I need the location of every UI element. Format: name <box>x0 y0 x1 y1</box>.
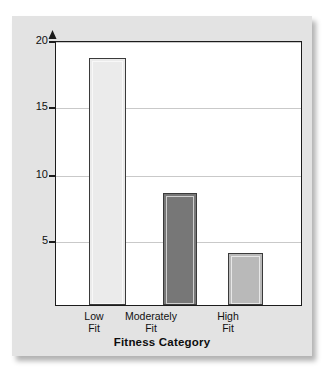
y-axis-arrow-icon <box>49 30 57 39</box>
bar-moderately-fit[interactable] <box>163 193 197 305</box>
bar-highlight <box>231 256 260 304</box>
x-axis-title: Fitness Category <box>12 336 312 348</box>
bar-high-fit[interactable] <box>228 253 263 305</box>
y-tick-label-10: 10 <box>18 169 48 180</box>
x-tick-line-2: Fit <box>202 322 254 334</box>
y-tick-label-20: 20 <box>18 35 48 46</box>
bar-highlight <box>92 61 123 304</box>
x-tick-label-moderately-fit: Moderately Fit <box>112 310 190 334</box>
figure-card: 20 15 10 5 Low Fit Moderately Fit High F… <box>12 16 312 356</box>
bar-low-fit[interactable] <box>89 58 126 305</box>
x-tick-line-1: High <box>202 310 254 322</box>
x-tick-line-1: Moderately <box>112 310 190 322</box>
x-tick-line-2: Fit <box>112 322 190 334</box>
bar-highlight <box>166 196 194 304</box>
x-tick-label-high-fit: High Fit <box>202 310 254 334</box>
y-tick-label-15: 15 <box>18 101 48 112</box>
y-tick-label-5: 5 <box>18 235 48 246</box>
plot-area <box>55 41 302 306</box>
gridline-20 <box>56 42 301 43</box>
